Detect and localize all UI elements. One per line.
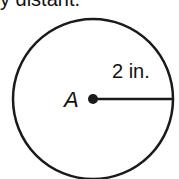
- center-label: A: [64, 87, 79, 113]
- center-point: [88, 94, 98, 104]
- radius-label: 2 in.: [112, 60, 150, 83]
- circle-diagram: [0, 0, 179, 179]
